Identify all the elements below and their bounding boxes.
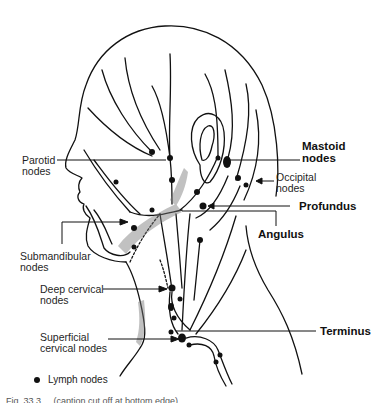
label-line: nodes xyxy=(20,262,91,273)
lymph-node-diagram: Parotid nodes Mastoid nodes Occipital no… xyxy=(0,0,381,403)
label-line: nodes xyxy=(40,295,104,306)
label-terminus: Terminus xyxy=(320,325,371,337)
label-submandibular-nodes: Submandibular nodes xyxy=(20,251,91,273)
label-profundus: Profundus xyxy=(299,200,357,212)
label-line: nodes xyxy=(22,166,55,177)
label-line: Mastoid xyxy=(302,140,345,152)
ear xyxy=(191,114,224,183)
lymph-node-dot-icon xyxy=(34,377,40,383)
label-parotid-nodes: Parotid nodes xyxy=(22,155,55,177)
label-superficial-cervical-nodes: Superficial cervical nodes xyxy=(40,332,107,354)
label-line: nodes xyxy=(302,152,345,164)
label-line: cervical nodes xyxy=(40,343,107,354)
label-line: nodes xyxy=(276,183,316,194)
legend: Lymph nodes xyxy=(34,374,108,385)
label-mastoid-nodes: Mastoid nodes xyxy=(302,140,345,164)
figure-caption: Fig. 33.3 ... (caption cut off at bottom… xyxy=(6,396,178,403)
label-deep-cervical-nodes: Deep cervical nodes xyxy=(40,284,104,306)
label-occipital-nodes: Occipital nodes xyxy=(276,172,316,194)
legend-label: Lymph nodes xyxy=(48,374,108,385)
label-angulus: Angulus xyxy=(258,228,304,240)
submandibular-leader xyxy=(62,222,124,244)
neck-back xyxy=(246,226,302,374)
